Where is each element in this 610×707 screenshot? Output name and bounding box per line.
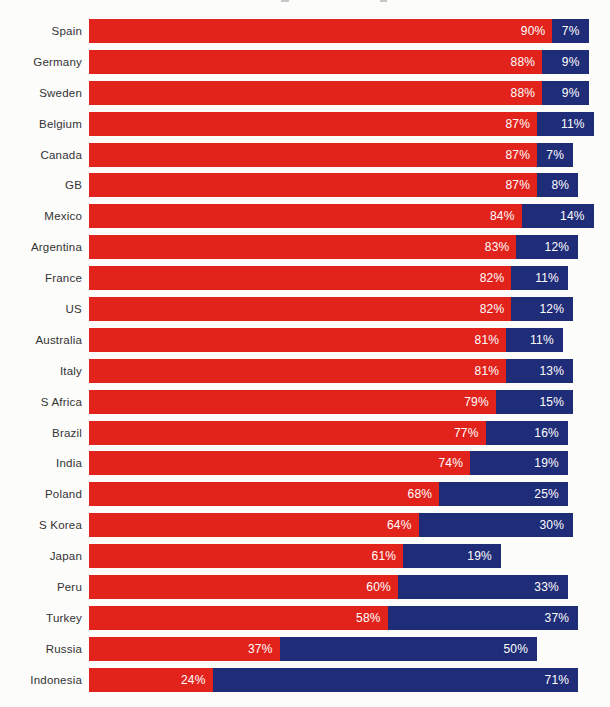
bar-area: 87%11% [89,112,604,136]
country-label: Peru [0,575,82,599]
bar-area: 81%11% [89,328,604,352]
chart-row: Sweden88%9% [0,81,610,112]
blue-segment-value: 11% [530,328,554,352]
blue-segment-value: 8% [551,173,569,197]
bar-area: 87%8% [89,173,604,197]
chart-row: Brazil77%16% [0,421,610,452]
red-segment-value: 74% [438,451,463,475]
red-segment-value: 37% [248,637,273,661]
red-segment: 60% [89,575,398,599]
red-segment-value: 60% [366,575,391,599]
red-segment: 61% [89,544,403,568]
country-label: Argentina [0,235,82,259]
red-segment-value: 87% [505,173,530,197]
red-segment: 37% [89,637,280,661]
blue-segment-value: 13% [539,359,564,383]
stacked-bar: 88%9% [89,81,589,105]
red-segment-value: 77% [454,421,479,445]
bar-area: 82%12% [89,297,604,321]
blue-segment: 25% [439,482,568,506]
chart-row: Poland68%25% [0,482,610,513]
stacked-bar: 81%11% [89,328,563,352]
country-label: Indonesia [0,668,82,692]
blue-segment: 9% [542,81,588,105]
chart-row: Peru60%33% [0,575,610,606]
stacked-bar: 87%7% [89,143,573,167]
country-label: Belgium [0,112,82,136]
red-segment: 87% [89,143,537,167]
red-segment-value: 88% [511,81,536,105]
blue-segment-value: 37% [545,606,570,630]
red-segment-value: 61% [372,544,397,568]
red-segment: 74% [89,451,470,475]
stacked-bar: 74%19% [89,451,568,475]
blue-segment: 19% [403,544,501,568]
red-segment-value: 84% [490,204,515,228]
country-label: Mexico [0,204,82,228]
red-segment-value: 58% [356,606,381,630]
blue-segment: 7% [552,19,588,43]
stacked-bar: 88%9% [89,50,589,74]
red-segment-value: 79% [464,390,489,414]
bar-area: 90%7% [89,19,604,43]
stacked-bar: 87%8% [89,173,578,197]
red-segment: 77% [89,421,486,445]
bar-area: 61%19% [89,544,604,568]
chart-row: Turkey58%37% [0,606,610,637]
red-segment-value: 82% [480,266,505,290]
country-label: Canada [0,143,82,167]
country-label: Germany [0,50,82,74]
blue-segment: 8% [537,173,578,197]
chart-row: S Africa79%15% [0,390,610,421]
red-segment: 81% [89,328,506,352]
bar-area: 77%16% [89,421,604,445]
red-segment-value: 24% [181,668,206,692]
red-segment-value: 88% [511,50,536,74]
blue-segment: 13% [506,359,573,383]
stacked-bar: 82%12% [89,297,573,321]
chart-row: Canada87%7% [0,143,610,174]
bar-area: 37%50% [89,637,604,661]
stacked-bar: 79%15% [89,390,573,414]
red-segment: 82% [89,297,511,321]
blue-segment-value: 14% [560,204,585,228]
stacked-bar: 64%30% [89,513,573,537]
country-label: India [0,451,82,475]
blue-segment: 30% [419,513,573,537]
country-label: GB [0,173,82,197]
red-segment-value: 68% [408,482,433,506]
country-label: S Korea [0,513,82,537]
blue-segment-value: 15% [539,390,564,414]
stacked-bar-chart: Spain90%7%Germany88%9%Sweden88%9%Belgium… [0,19,610,699]
red-segment: 84% [89,204,522,228]
blue-segment-value: 7% [546,143,564,167]
blue-segment: 9% [542,50,588,74]
blue-segment: 19% [470,451,568,475]
chart-row: Russia37%50% [0,637,610,668]
blue-segment: 37% [388,606,579,630]
red-segment: 68% [89,482,439,506]
country-label: Poland [0,482,82,506]
blue-segment: 33% [398,575,568,599]
blue-segment: 12% [516,235,578,259]
country-label: Brazil [0,421,82,445]
blue-segment: 14% [522,204,594,228]
red-segment: 90% [89,19,552,43]
red-segment: 81% [89,359,506,383]
stacked-bar: 60%33% [89,575,568,599]
country-label: France [0,266,82,290]
red-segment-value: 82% [480,297,505,321]
blue-segment: 11% [511,266,568,290]
red-segment: 79% [89,390,496,414]
bar-area: 60%33% [89,575,604,599]
blue-segment: 71% [213,668,579,692]
stacked-bar: 68%25% [89,482,568,506]
bar-area: 84%14% [89,204,604,228]
blue-segment: 11% [506,328,563,352]
red-segment-value: 81% [475,328,500,352]
chart-row: Mexico84%14% [0,204,610,235]
stacked-bar: 83%12% [89,235,578,259]
chart-row: Germany88%9% [0,50,610,81]
stacked-bar: 82%11% [89,266,568,290]
blue-segment-value: 12% [545,235,570,259]
